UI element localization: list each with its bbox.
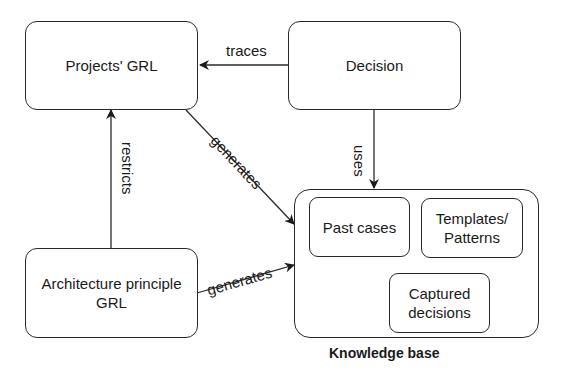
node-captured-decisions: Captured decisions: [389, 273, 490, 333]
knowledge-base-title: Knowledge base: [329, 345, 439, 361]
node-projects-grl-label: Projects' GRL: [65, 56, 157, 75]
edge-label-restricts: restricts: [119, 142, 136, 195]
node-decision: Decision: [288, 21, 461, 110]
node-projects-grl: Projects' GRL: [25, 21, 198, 110]
node-decision-label: Decision: [346, 56, 404, 75]
edge-label-traces: traces: [226, 42, 267, 59]
node-templates-patterns: Templates/ Patterns: [421, 198, 523, 258]
node-captured-decisions-label: Captured decisions: [400, 284, 480, 322]
node-templates-patterns-label: Templates/ Patterns: [429, 209, 515, 247]
node-past-cases-label: Past cases: [323, 218, 396, 237]
node-architecture-principle-grl-label: Architecture principle GRL: [32, 274, 192, 312]
node-past-cases: Past cases: [309, 197, 410, 257]
node-architecture-principle-grl: Architecture principle GRL: [25, 248, 198, 338]
edge-label-uses: uses: [351, 145, 368, 177]
